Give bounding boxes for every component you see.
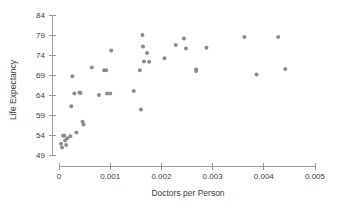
data-point [204, 46, 208, 50]
data-point [108, 91, 112, 95]
data-point [109, 49, 113, 53]
x-axis: 00.0010.0020.0030.0040.005 [57, 163, 326, 182]
data-point [132, 89, 136, 93]
data-point [139, 107, 143, 111]
data-point [141, 45, 145, 49]
data-point [64, 143, 68, 147]
y-tick-label: 64 [36, 91, 45, 100]
data-point [147, 60, 151, 64]
x-tick-label: 0.003 [203, 172, 224, 181]
data-point [194, 69, 198, 73]
data-point [140, 33, 144, 37]
data-point [59, 142, 63, 146]
x-tick-label: 0.002 [151, 172, 172, 181]
y-tick-label: 79 [36, 31, 45, 40]
y-tick-label: 69 [36, 71, 45, 80]
data-point [62, 133, 66, 137]
x-tick-label: 0.001 [100, 172, 121, 181]
data-point [79, 91, 83, 95]
data-point [145, 51, 149, 55]
y-tick-label: 59 [36, 111, 45, 120]
y-tick-label: 84 [36, 11, 45, 20]
x-tick-label: 0.004 [254, 172, 275, 181]
data-point [104, 68, 108, 72]
y-tick-label: 74 [36, 51, 45, 60]
chart-canvas: 4954596469747984 00.0010.0020.0030.0040.… [0, 0, 350, 204]
y-tick-label: 49 [36, 151, 45, 160]
data-point [138, 68, 142, 72]
data-point [276, 35, 280, 39]
data-point [162, 56, 166, 60]
data-point [70, 74, 74, 78]
data-point [182, 37, 186, 41]
x-axis-title: Doctors per Person [151, 188, 224, 198]
x-tick-label: 0.005 [305, 172, 326, 181]
y-axis-title: Life Expectancy [8, 59, 18, 120]
y-axis: 4954596469747984 [36, 11, 55, 160]
data-point [60, 145, 64, 149]
data-point [242, 35, 246, 39]
data-point [90, 65, 94, 69]
data-point [255, 73, 259, 77]
data-point [184, 47, 188, 51]
y-tick-label: 54 [36, 131, 45, 140]
data-point [69, 104, 73, 108]
data-point [82, 123, 86, 127]
data-point [283, 67, 287, 71]
data-points-layer [59, 33, 287, 149]
data-point [74, 131, 78, 135]
scatter-chart: 4954596469747984 00.0010.0020.0030.0040.… [0, 0, 350, 204]
data-point [72, 91, 76, 95]
data-point [68, 134, 72, 138]
data-point [142, 59, 146, 63]
data-point [97, 93, 101, 97]
data-point [174, 43, 178, 47]
x-tick-label: 0 [57, 172, 62, 181]
